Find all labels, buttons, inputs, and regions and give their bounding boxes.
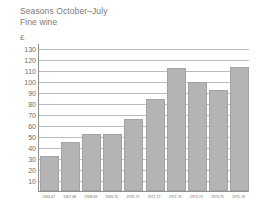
x-axis-tick-labels: 1966-671967-681968-691969-701970-711971-… xyxy=(38,194,249,208)
y-axis-unit-label: £ xyxy=(20,33,24,42)
y-axis-tick-label: 40 xyxy=(28,145,36,152)
bar xyxy=(124,119,143,191)
x-axis-tick-label: 1970-71 xyxy=(122,194,143,200)
chart-subtitle: Fine wine xyxy=(20,17,108,28)
bar xyxy=(40,156,59,191)
y-axis-tick-label: 130 xyxy=(24,46,36,53)
y-axis-tick-label: 30 xyxy=(28,156,36,163)
x-axis-tick-label: 1972-73 xyxy=(165,194,186,200)
plot-area xyxy=(38,44,249,192)
x-axis-tick-label: 1969-70 xyxy=(101,194,122,200)
y-axis-tick-label: 60 xyxy=(28,123,36,130)
y-axis-tick-label: 90 xyxy=(28,90,36,97)
x-axis-tick-label: 1974-75 xyxy=(207,194,228,200)
bar-series xyxy=(39,44,249,191)
x-axis-tick-label: 1968-69 xyxy=(80,194,101,200)
bar xyxy=(103,134,122,191)
bar xyxy=(146,99,165,191)
bar xyxy=(82,134,101,191)
y-axis-tick-label: 50 xyxy=(28,134,36,141)
bar xyxy=(61,142,80,191)
y-axis-tick-label: 120 xyxy=(24,57,36,64)
chart-container: Seasons October–July Fine wine £ 1020304… xyxy=(0,0,257,214)
x-axis-tick-label: 1975-76 xyxy=(228,194,249,200)
y-axis-tick-label: 100 xyxy=(24,79,36,86)
y-axis-tick-label: 80 xyxy=(28,101,36,108)
y-axis-tick-label: 10 xyxy=(28,178,36,185)
x-axis-tick-label: 1966-67 xyxy=(38,194,59,200)
bar xyxy=(167,68,186,191)
y-axis-tick-labels: 102030405060708090100110120130 xyxy=(16,44,36,192)
y-axis-tick-label: 20 xyxy=(28,167,36,174)
y-axis-tick-label: 110 xyxy=(25,68,36,75)
chart-title: Seasons October–July xyxy=(20,6,108,17)
bar xyxy=(209,90,228,191)
x-axis-tick-label: 1971-72 xyxy=(144,194,165,200)
chart-title-block: Seasons October–July Fine wine xyxy=(20,6,108,28)
x-axis-tick-label: 1973-74 xyxy=(186,194,207,200)
y-axis-tick-label: 70 xyxy=(28,112,36,119)
bar xyxy=(230,67,249,191)
bar xyxy=(188,82,207,191)
x-axis-tick-label: 1967-68 xyxy=(59,194,80,200)
